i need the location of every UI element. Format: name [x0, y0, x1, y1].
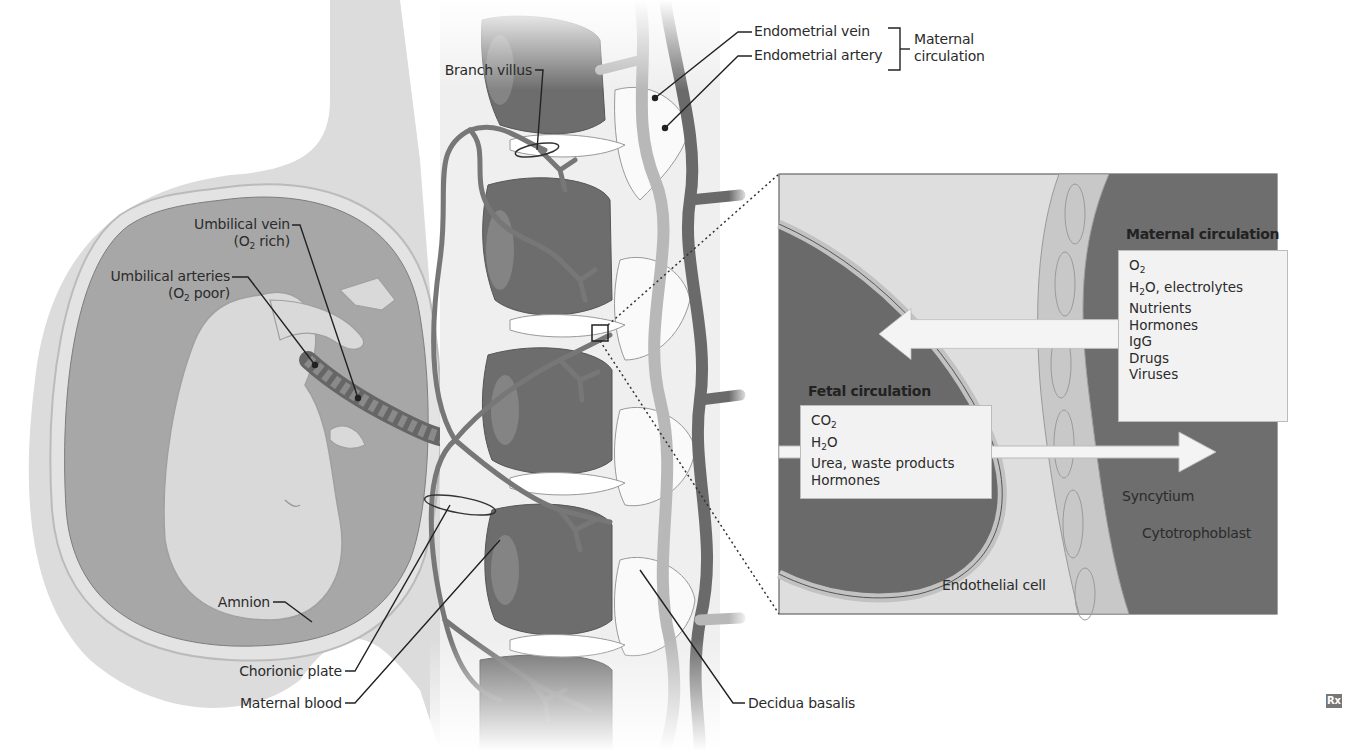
label-endothelial-cell: Endothelial cell: [942, 577, 1046, 594]
fetal-item: CO2: [811, 412, 981, 434]
maternal-line-2: circulation: [914, 48, 985, 65]
note-prefix: (O: [168, 285, 184, 301]
label-syncytium: Syncytium: [1122, 488, 1194, 505]
fetal-item: H2O: [811, 434, 981, 456]
label-branch-villus: Branch villus: [436, 62, 532, 79]
label-maternal-blood: Maternal blood: [220, 695, 342, 712]
note-suffix: rich): [255, 233, 290, 249]
fetal-item: Urea, waste products: [811, 455, 981, 472]
maternal-item: H2O, electrolytes: [1129, 279, 1277, 301]
maternal-item: Viruses: [1129, 366, 1277, 383]
umbilical-vein-text: Umbilical vein: [150, 216, 290, 233]
note-suffix: poor): [190, 285, 231, 301]
fetal-circulation-title: Fetal circulation: [808, 383, 931, 399]
maternal-circulation-title: Maternal circulation: [1126, 226, 1279, 242]
maternal-substances-box: O2 H2O, electrolytes Nutrients Hormones …: [1118, 250, 1288, 422]
label-chorionic-plate: Chorionic plate: [220, 663, 342, 680]
umbilical-arteries-text: Umbilical arteries: [80, 268, 230, 285]
label-cytotrophoblast: Cytotrophoblast: [1142, 525, 1251, 542]
fetal-substances-box: CO2 H2O Urea, waste products Hormones: [800, 405, 992, 499]
maternal-item: O2: [1129, 257, 1277, 279]
label-maternal-circulation-bracket: Maternal circulation: [914, 31, 985, 65]
umbilical-vein-note: (O2 rich): [150, 233, 290, 255]
note-prefix: (O: [233, 233, 249, 249]
umbilical-arteries-note: (O2 poor): [80, 285, 230, 307]
maternal-line-1: Maternal: [914, 31, 985, 48]
fetal-item: Hormones: [811, 472, 981, 489]
maternal-item: Nutrients: [1129, 300, 1277, 317]
label-umbilical-arteries: Umbilical arteries (O2 poor): [80, 268, 230, 307]
label-endometrial-vein: Endometrial vein: [754, 23, 870, 40]
maternal-item: IgG: [1129, 333, 1277, 350]
label-amnion: Amnion: [200, 594, 270, 611]
maternal-item: Hormones: [1129, 317, 1277, 334]
label-endometrial-artery: Endometrial artery: [754, 47, 882, 64]
label-umbilical-vein: Umbilical vein (O2 rich): [150, 216, 290, 255]
maternal-item: Drugs: [1129, 350, 1277, 367]
rx-badge-icon: Rx: [1326, 694, 1342, 708]
label-decidua-basalis: Decidua basalis: [748, 695, 855, 712]
